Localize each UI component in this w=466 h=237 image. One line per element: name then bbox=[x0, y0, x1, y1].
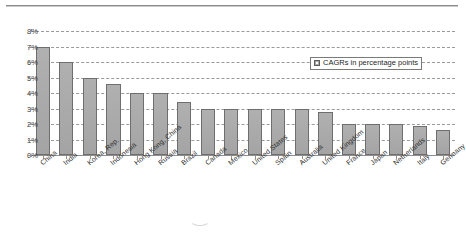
y-axis-tick-mark bbox=[28, 109, 32, 110]
x-axis-tick-mark bbox=[255, 155, 256, 159]
bar bbox=[342, 124, 356, 155]
bar bbox=[130, 93, 144, 155]
y-axis-tick-mark bbox=[28, 124, 32, 125]
x-axis-tick-mark bbox=[161, 155, 162, 159]
x-axis-tick-mark bbox=[349, 155, 350, 159]
y-axis-tick-mark bbox=[28, 62, 32, 63]
x-axis-tick-mark bbox=[396, 155, 397, 159]
bar bbox=[59, 62, 73, 155]
bar bbox=[177, 102, 191, 155]
bar bbox=[201, 109, 215, 156]
x-axis-tick-mark bbox=[443, 155, 444, 159]
bar bbox=[413, 126, 427, 155]
y-axis-tick-mark bbox=[28, 47, 32, 48]
x-axis-tick-mark bbox=[66, 155, 67, 159]
bar bbox=[106, 84, 120, 155]
bar bbox=[389, 124, 403, 155]
bar bbox=[318, 112, 332, 155]
x-axis-tick-mark bbox=[420, 155, 421, 159]
bar bbox=[365, 124, 379, 155]
bar bbox=[153, 93, 167, 155]
chart-legend: CAGRs in percentage points bbox=[310, 57, 422, 70]
y-axis-tick-mark bbox=[28, 78, 32, 79]
plot-area bbox=[31, 31, 455, 155]
bar-series bbox=[31, 31, 455, 155]
bar bbox=[295, 109, 309, 156]
y-axis-tick-mark bbox=[28, 93, 32, 94]
legend-label: CAGRs in percentage points bbox=[323, 59, 418, 67]
bar bbox=[271, 109, 285, 156]
x-axis-tick-mark bbox=[90, 155, 91, 159]
x-axis-tick-mark bbox=[278, 155, 279, 159]
x-axis-tick-mark bbox=[184, 155, 185, 159]
x-axis-tick-mark bbox=[231, 155, 232, 159]
y-axis-tick-mark bbox=[28, 140, 32, 141]
bar bbox=[83, 78, 97, 156]
y-axis-tick-mark bbox=[28, 31, 32, 32]
bar bbox=[248, 109, 262, 156]
bar bbox=[436, 130, 450, 155]
y-axis-tick-mark bbox=[28, 155, 32, 156]
x-axis-tick-mark bbox=[373, 155, 374, 159]
bar bbox=[224, 109, 238, 156]
x-axis-line bbox=[31, 155, 455, 156]
x-axis-tick-mark bbox=[208, 155, 209, 159]
top-rule-secondary bbox=[6, 6, 458, 7]
x-axis-tick-mark bbox=[137, 155, 138, 159]
x-axis-tick-mark bbox=[325, 155, 326, 159]
x-axis-tick-mark bbox=[43, 155, 44, 159]
x-axis-tick-mark bbox=[302, 155, 303, 159]
legend-swatch-icon bbox=[314, 60, 320, 66]
x-axis-tick-mark bbox=[113, 155, 114, 159]
scan-artifact: ‿ bbox=[193, 206, 208, 227]
